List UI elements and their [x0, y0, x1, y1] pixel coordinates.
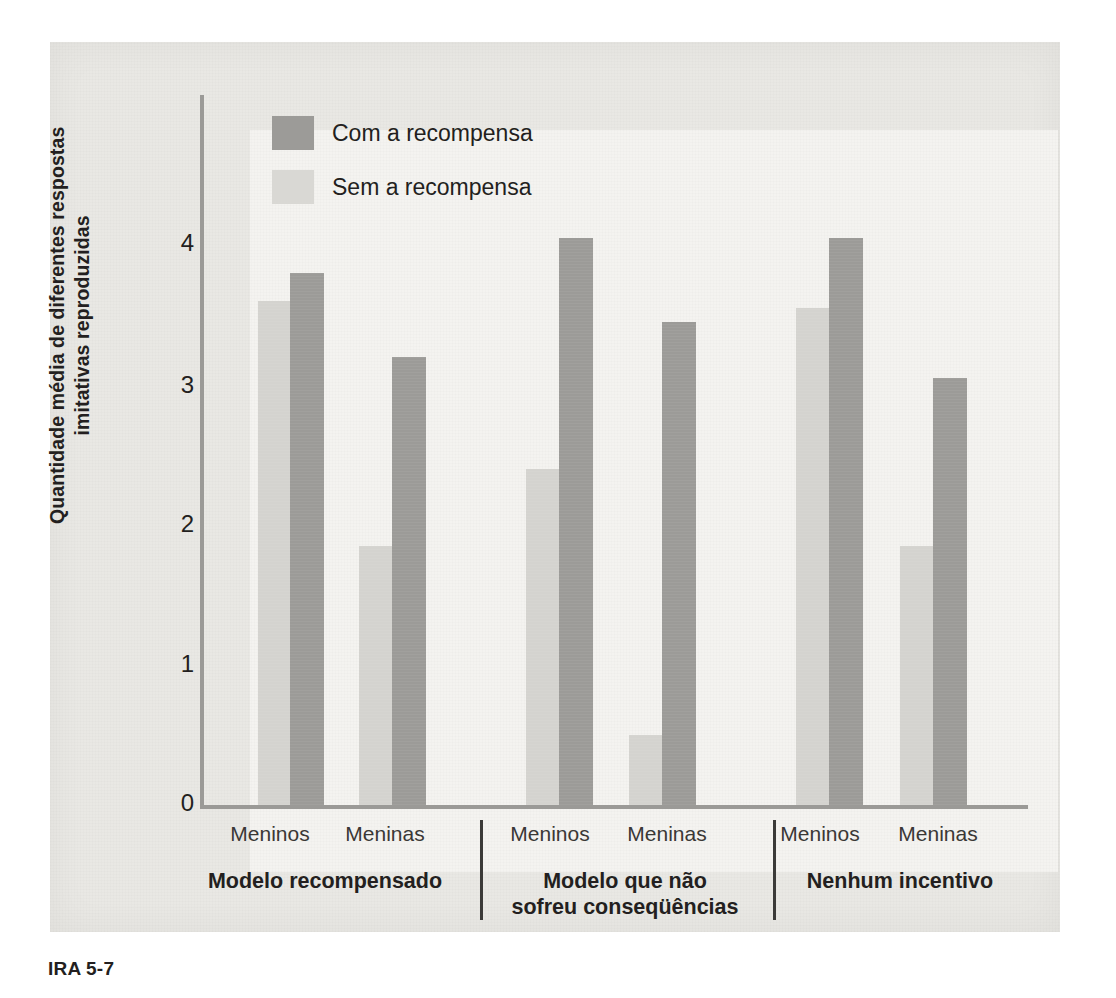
bar-g2-meninas-com[interactable]	[933, 378, 967, 805]
bar-g0-meninas-sem[interactable]	[359, 546, 392, 805]
bar-g2-meninos-sem[interactable]	[796, 308, 829, 805]
legend-label-sem: Sem a recompensa	[332, 174, 531, 201]
legend-label-com: Com a recompensa	[332, 120, 533, 147]
bar-g1-meninos-sem[interactable]	[526, 469, 559, 805]
figure-container: Quantidade média de diferentes respostas…	[0, 0, 1116, 998]
group-caption-2: Nenhum incentivo	[780, 868, 1020, 894]
gender-label-g0-meninas: Meninas	[330, 822, 440, 846]
gender-label-g1-meninos: Meninos	[495, 822, 605, 846]
bar-g2-meninos-com[interactable]	[829, 238, 863, 805]
bar-g1-meninas-sem[interactable]	[629, 735, 662, 805]
legend-swatch-com-icon	[272, 116, 314, 150]
bar-g0-meninos-sem[interactable]	[258, 301, 290, 805]
legend-item-com[interactable]: Com a recompensa	[272, 116, 533, 150]
bar-g0-meninos-com[interactable]	[290, 273, 324, 805]
group-caption-1: Modelo que não sofreu conseqüências	[490, 868, 760, 920]
figure-caption: IRA 5-7	[48, 958, 114, 980]
group-caption-2-line-1: Nenhum incentivo	[780, 868, 1020, 894]
y-tick-label-3: 3	[152, 371, 194, 399]
bar-g2-meninas-sem[interactable]	[900, 546, 933, 805]
x-axis-line	[200, 805, 1028, 809]
y-tick-label-4: 4	[152, 229, 194, 257]
gender-label-g1-meninas: Meninas	[612, 822, 722, 846]
group-separator-1	[480, 820, 483, 920]
legend-item-sem[interactable]: Sem a recompensa	[272, 170, 533, 204]
group-caption-0: Modelo recompensado	[185, 868, 465, 894]
y-tick-label-2: 2	[152, 510, 194, 538]
group-caption-1-line-1: Modelo que não	[490, 868, 760, 894]
bar-g0-meninas-com[interactable]	[392, 357, 426, 805]
group-caption-0-line-1: Modelo recompensado	[185, 868, 465, 894]
y-axis-title-line-1: Quantidade média de diferentes respostas	[45, 105, 70, 545]
group-caption-1-line-2: sofreu conseqüências	[490, 894, 760, 920]
legend: Com a recompensa Sem a recompensa	[272, 116, 533, 224]
legend-swatch-sem-icon	[272, 170, 314, 204]
gender-label-g0-meninos: Meninos	[215, 822, 325, 846]
y-tick-label-0: 0	[152, 789, 194, 817]
y-tick-label-1: 1	[152, 650, 194, 678]
y-axis-title-line-2: imitativas reproduzidas	[70, 105, 95, 545]
gender-label-g2-meninas: Meninas	[883, 822, 993, 846]
y-axis-title: Quantidade média de diferentes respostas…	[45, 105, 96, 545]
gender-label-g2-meninos: Meninos	[765, 822, 875, 846]
bar-g1-meninos-com[interactable]	[559, 238, 593, 805]
bar-g1-meninas-com[interactable]	[662, 322, 696, 805]
